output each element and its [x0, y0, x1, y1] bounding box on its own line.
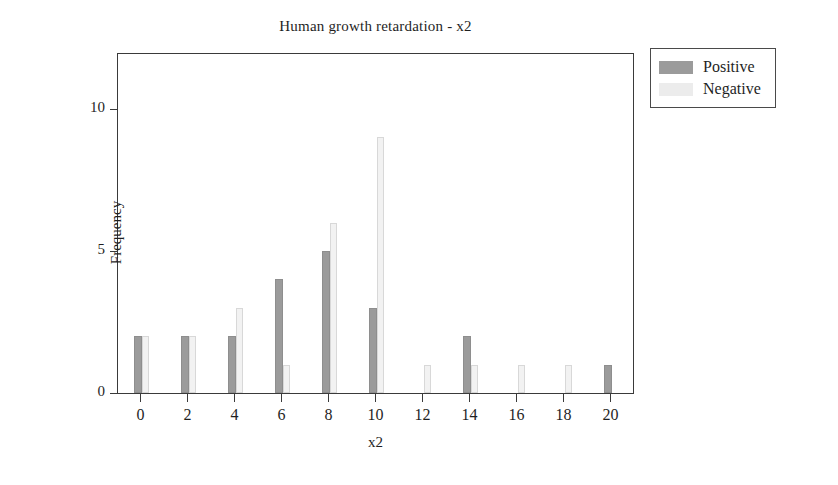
x-tick-mark	[140, 394, 141, 402]
x-tick-label: 20	[591, 406, 631, 424]
legend-swatch-negative-icon	[659, 83, 693, 96]
x-tick-label: 2	[168, 406, 208, 424]
y-tick-mark	[110, 251, 117, 252]
plot-area	[118, 54, 633, 393]
bar-negative	[471, 365, 479, 393]
chart-figure: Human growth retardation - x2 Frequency …	[0, 0, 838, 485]
bar-negative	[424, 365, 432, 393]
legend-item-positive: Positive	[659, 56, 761, 78]
bar-positive	[181, 336, 189, 393]
bar-positive	[369, 308, 377, 393]
x-tick-label: 18	[544, 406, 584, 424]
x-tick-mark	[422, 394, 423, 402]
bar-positive	[322, 251, 330, 393]
x-tick-label: 10	[356, 406, 396, 424]
legend-label-negative: Negative	[703, 80, 761, 98]
x-tick-label: 16	[497, 406, 537, 424]
y-tick-label: 0	[98, 383, 106, 400]
x-tick-label: 14	[450, 406, 490, 424]
x-tick-mark	[281, 394, 282, 402]
legend-label-positive: Positive	[703, 58, 755, 76]
x-tick-mark	[234, 394, 235, 402]
legend-swatch-positive-icon	[659, 61, 693, 74]
x-tick-label: 0	[121, 406, 161, 424]
chart-title: Human growth retardation - x2	[117, 18, 634, 35]
y-tick-mark	[110, 393, 117, 394]
x-tick-mark	[610, 394, 611, 402]
x-axis-label: x2	[117, 434, 634, 451]
bar-positive	[275, 279, 283, 393]
y-tick-mark	[110, 109, 117, 110]
x-tick-label: 4	[215, 406, 255, 424]
bar-negative	[518, 365, 526, 393]
bar-negative	[565, 365, 573, 393]
x-tick-mark	[187, 394, 188, 402]
bar-negative	[236, 308, 244, 393]
x-tick-label: 6	[262, 406, 302, 424]
x-tick-mark	[563, 394, 564, 402]
y-tick-label: 5	[98, 241, 106, 258]
x-tick-mark	[516, 394, 517, 402]
y-tick-label: 10	[90, 99, 105, 116]
bar-negative	[330, 223, 338, 394]
bar-negative	[142, 336, 150, 393]
x-tick-mark	[469, 394, 470, 402]
plot-frame: Frequency	[117, 53, 634, 394]
bar-negative	[283, 365, 291, 393]
bar-positive	[228, 336, 236, 393]
x-tick-label: 8	[309, 406, 349, 424]
bar-positive	[134, 336, 142, 393]
bar-negative	[189, 336, 197, 393]
x-tick-label: 12	[403, 406, 443, 424]
bar-positive	[604, 365, 612, 393]
x-tick-mark	[328, 394, 329, 402]
legend-item-negative: Negative	[659, 78, 761, 100]
x-tick-mark	[375, 394, 376, 402]
chart-legend: Positive Negative	[650, 48, 776, 108]
bar-negative	[377, 137, 385, 393]
bar-positive	[463, 336, 471, 393]
